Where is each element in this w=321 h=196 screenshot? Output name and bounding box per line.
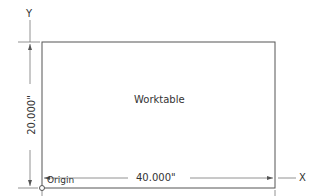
width-dimension: 40.000" xyxy=(133,173,179,183)
origin-marker-icon xyxy=(40,186,45,191)
arrow-up-icon xyxy=(28,44,32,50)
worktable-outline xyxy=(42,42,275,188)
worktable-title: Worktable xyxy=(134,95,185,105)
origin-label: Origin xyxy=(47,176,74,185)
arrow-right-icon xyxy=(267,176,273,180)
height-dimension: 20.000" xyxy=(27,88,37,142)
y-axis-label: Y xyxy=(26,9,32,19)
arrow-down-icon xyxy=(28,180,32,186)
x-axis-label: X xyxy=(299,173,306,183)
